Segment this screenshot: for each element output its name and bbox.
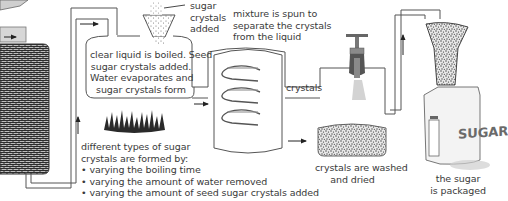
bullet: • [81,176,87,187]
boiling-note: clear liquid is boiled. Seed sugar cryst… [90,49,192,95]
wash-tray [318,124,386,156]
seed-funnel [143,2,185,45]
crystals-label: crystals [286,82,322,94]
flame-icon [104,110,165,133]
washed-note: crystals are washed and dried [315,162,390,185]
types-note: different types of sugar crystals are fo… [81,141,319,199]
packaged-note: the sugar is packaged [430,173,486,196]
bullet: • [81,164,87,175]
sugar-package [424,23,490,170]
filter-tank [0,0,49,174]
bag-logo: SUGAR [458,125,508,140]
spin-note: mixture is spun to separate the crystals… [233,8,331,43]
tap-icon [346,34,368,100]
centrifuge [214,50,282,154]
bullet: • [81,187,87,198]
seed-crystals-label: sugar crystals added [190,0,226,35]
